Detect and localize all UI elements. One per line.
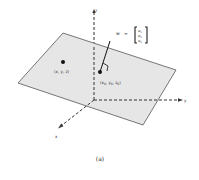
w-label: w — [116, 31, 120, 36]
point-xyz-label: (x, y, z) — [54, 69, 69, 74]
x-axis-label: x — [55, 134, 58, 139]
point-xyz — [61, 60, 65, 64]
plane — [18, 33, 176, 125]
hyperplane-diagram: z y x (x, y, z) (x0, y0, z0) w = w1 w2 w… — [0, 0, 199, 180]
w-equals: = — [124, 31, 128, 36]
figure-caption: (a) — [96, 155, 104, 162]
w-matrix: w1 w2 w3 — [135, 27, 147, 44]
x-axis — [58, 100, 94, 129]
z-axis-label: z — [95, 8, 97, 13]
w3-component: w3 — [138, 39, 143, 44]
y-axis-arrow-icon — [178, 98, 183, 101]
x-axis-arrow-icon — [58, 124, 63, 129]
y-axis-label: y — [184, 98, 187, 103]
